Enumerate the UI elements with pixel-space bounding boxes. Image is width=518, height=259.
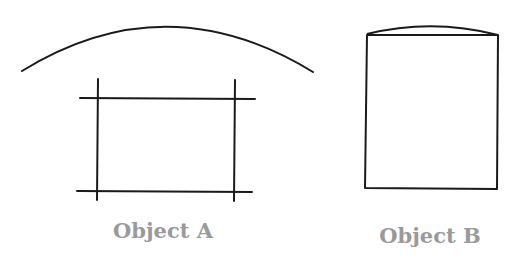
object-b-label: Object B (379, 223, 480, 248)
object-a-top-line (80, 98, 255, 99)
diagram-drawing (0, 0, 518, 259)
object-b-drawing (365, 26, 498, 189)
object-a-arc (22, 27, 313, 72)
diagram: Object A Object B (0, 0, 518, 259)
object-b-rectangle (365, 35, 498, 189)
object-a-label: Object A (113, 218, 213, 243)
object-a-drawing (22, 27, 313, 201)
object-b-arc (367, 26, 498, 35)
object-a-bottom-line (77, 191, 252, 192)
